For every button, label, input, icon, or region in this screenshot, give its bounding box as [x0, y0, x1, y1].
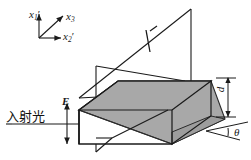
axis-label-x1: x1′	[29, 9, 40, 22]
incident-light-label: 入射光	[6, 110, 45, 123]
e-field-label: E	[62, 96, 69, 107]
normal-tick-hook	[150, 26, 157, 31]
diagram-canvas	[0, 0, 251, 160]
axis-label-x2: x2′	[63, 31, 74, 44]
axis-group	[39, 14, 63, 38]
axis-x3-arrow	[39, 16, 63, 38]
normal-tick-mark	[146, 30, 150, 52]
optics-slab-diagram: x1′ x3 x2′ E 入射光 d θ	[0, 0, 251, 160]
thickness-label: d	[215, 87, 226, 93]
angle-theta-label: θ	[234, 127, 239, 138]
axis-label-x3: x3	[66, 11, 75, 24]
